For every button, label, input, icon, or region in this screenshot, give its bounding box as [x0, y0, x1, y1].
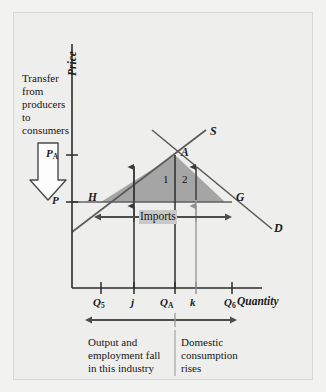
- imports-label: Imports: [139, 210, 177, 224]
- x-tick-label-j: j: [131, 296, 134, 309]
- transfer-note: Transfer from producers to consumers: [22, 72, 78, 137]
- y-tick-label-pa: PA: [46, 147, 58, 160]
- x-tick-label-q5-sub: 5: [101, 301, 105, 310]
- y-tick-label-pa-sub: A: [53, 152, 58, 161]
- region-label-two: 2: [182, 173, 188, 186]
- region-label-one: 1: [163, 173, 169, 186]
- x-tick-label-k: k: [190, 296, 196, 309]
- demand-curve-label: D: [274, 221, 283, 235]
- x-tick-label-q5-text: Q: [93, 296, 101, 308]
- point-label-g: G: [236, 191, 244, 205]
- x-tick-label-q6: Q6: [224, 296, 236, 309]
- point-label-a: A: [181, 146, 189, 160]
- supply-curve-label: S: [210, 124, 217, 138]
- x-tick-label-q6-sub: 6: [232, 301, 236, 310]
- point-label-h: H: [88, 191, 97, 205]
- bottom-span-arrow: [92, 313, 230, 327]
- x-axis-title: Quantity: [237, 295, 279, 309]
- economics-diagram-figure: Price Quantity PA P Q5 j QA k Q6 S D A H…: [0, 0, 326, 392]
- x-tick-label-q5: Q5: [93, 296, 105, 309]
- y-tick-label-p: P: [52, 194, 59, 207]
- y-tick-label-pa-text: P: [46, 147, 53, 159]
- diagram-canvas: [0, 0, 326, 392]
- x-tick-label-qa-text: Q: [160, 296, 168, 308]
- x-tick-label-qa-sub: A: [168, 301, 173, 310]
- x-tick-label-q6-text: Q: [224, 296, 232, 308]
- bottom-left-note: Output and employment fall in this indus…: [88, 336, 176, 375]
- bottom-right-note: Domestic consumption rises: [181, 336, 267, 375]
- x-tick-label-qa: QA: [160, 296, 173, 309]
